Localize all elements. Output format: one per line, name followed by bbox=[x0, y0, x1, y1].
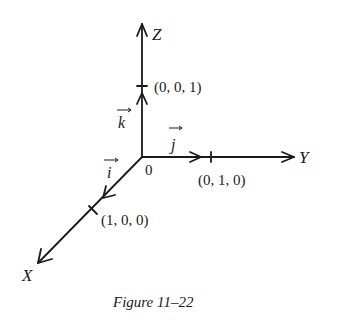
x-unit-point-label: (1, 0, 0) bbox=[101, 212, 149, 229]
origin-label: 0 bbox=[145, 162, 153, 178]
y-axis-label: Y bbox=[299, 148, 310, 167]
i-vector-label: i bbox=[107, 164, 111, 181]
j-vector-label: j bbox=[169, 136, 176, 154]
coordinate-axes-diagram: Z Y X 0 k j i (0, 0, 1) (0, 1, 0) (1, 0,… bbox=[0, 0, 340, 321]
y-unit-point-label: (0, 1, 0) bbox=[198, 172, 246, 189]
figure-caption: Figure 11–22 bbox=[112, 294, 194, 310]
k-vector-label: k bbox=[118, 114, 126, 131]
x-axis-label: X bbox=[21, 266, 33, 285]
z-unit-point-label: (0, 0, 1) bbox=[154, 79, 202, 96]
x-axis bbox=[38, 157, 142, 263]
z-axis-label: Z bbox=[152, 25, 162, 44]
